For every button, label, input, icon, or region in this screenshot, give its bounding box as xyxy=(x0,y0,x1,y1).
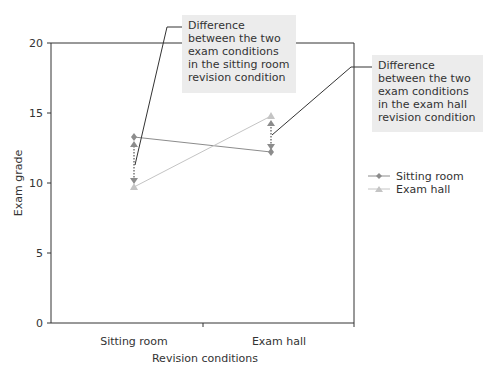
difference-arrow-sitting-room xyxy=(130,141,138,184)
y-ticks xyxy=(47,43,51,323)
series-sitting-room-line xyxy=(134,137,271,152)
data-point-sitting-room xyxy=(268,148,274,156)
series-exam-hall-line xyxy=(134,116,271,187)
y-tick-label: 10 xyxy=(29,177,43,190)
annotation-exam-hall: Difference between the two exam conditio… xyxy=(372,55,483,132)
difference-arrow-exam-hall xyxy=(267,120,275,150)
x-category-label: Sitting room xyxy=(100,335,168,348)
annotation-leader-sitting-room xyxy=(135,27,182,165)
legend-label-sitting-room: Sitting room xyxy=(396,170,464,183)
y-tick-label: 0 xyxy=(36,317,43,330)
y-tick-label: 15 xyxy=(29,107,43,120)
annotation-sitting-room: Difference between the two exam conditio… xyxy=(182,15,296,93)
legend-label-exam-hall: Exam hall xyxy=(396,183,450,196)
legend-diamond-icon xyxy=(376,173,382,179)
x-axis-title: Revision conditions xyxy=(152,352,258,365)
y-tick-label: 20 xyxy=(29,37,43,50)
legend: Sitting room Exam hall xyxy=(368,170,464,196)
y-tick-label: 5 xyxy=(36,247,43,260)
data-point-sitting-room xyxy=(131,133,137,141)
x-category-label: Exam hall xyxy=(252,335,306,348)
data-point-exam-hall xyxy=(130,183,138,190)
data-point-exam-hall xyxy=(267,112,275,119)
y-axis-title: Exam grade xyxy=(12,150,25,217)
